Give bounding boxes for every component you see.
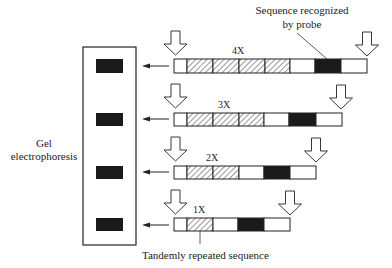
arrow-left-icon xyxy=(142,223,150,228)
flanking-segment xyxy=(174,59,187,73)
probe-label: Sequence recognized by probe xyxy=(252,4,352,30)
fragment-row-2x: 2X xyxy=(96,137,328,179)
flanking-segment xyxy=(174,166,187,179)
gel-band xyxy=(96,166,123,179)
tandem-repeat-segment xyxy=(265,59,290,73)
restriction-site-arrow-icon xyxy=(164,31,187,55)
repeat-count-label: 4X xyxy=(232,45,245,56)
probe-label-line2: by probe xyxy=(252,18,352,30)
flanking-segment xyxy=(341,59,367,73)
diagram-canvas: 4X3X2X1X Sequence recognized by probe Ge… xyxy=(0,0,392,268)
gel-band xyxy=(96,59,123,73)
restriction-site-arrow-icon xyxy=(330,85,353,109)
gel-box xyxy=(83,47,136,245)
gel-label: Gel electrophoresis xyxy=(8,137,80,162)
restriction-site-arrow-icon xyxy=(279,191,302,215)
probe-site-segment xyxy=(289,113,316,126)
flanking-segment xyxy=(316,113,342,126)
restriction-site-arrow-icon xyxy=(164,190,187,214)
repeat-count-label: 3X xyxy=(218,99,231,110)
tandem-repeat-segment xyxy=(239,113,264,126)
tandem-repeat-segment xyxy=(213,59,239,73)
tandem-repeat-segment xyxy=(187,166,213,179)
restriction-site-arrow-icon xyxy=(164,137,187,161)
tandem-repeat-segment xyxy=(239,59,265,73)
arrow-left-icon xyxy=(142,170,150,175)
flanking-segment xyxy=(264,113,289,126)
repeat-count-label: 2X xyxy=(206,152,219,163)
tandem-repeat-segment xyxy=(213,113,239,126)
restriction-site-arrow-icon xyxy=(356,32,379,56)
flanking-segment xyxy=(213,218,238,231)
tandem-repeat-segment xyxy=(187,218,213,231)
tandem-repeat-segment xyxy=(213,166,239,179)
tandem-repeat-segment xyxy=(187,59,213,73)
probe-leader-line xyxy=(297,33,327,59)
tandem-repeat-diagram: 4X3X2X1X xyxy=(0,0,392,268)
probe-label-line1: Sequence recognized xyxy=(252,4,352,16)
gel-label-line2: electrophoresis xyxy=(8,150,80,162)
arrow-left-icon xyxy=(142,64,150,69)
arrow-left-icon xyxy=(142,117,150,122)
tandem-repeat-segment xyxy=(187,113,213,126)
flanking-segment xyxy=(174,113,187,126)
fragment-row-3x: 3X xyxy=(96,84,353,126)
restriction-site-arrow-icon xyxy=(305,138,328,162)
flanking-segment xyxy=(264,218,290,231)
flanking-segment xyxy=(239,166,264,179)
probe-site-segment xyxy=(264,166,290,179)
repeat-count-label: 1X xyxy=(193,204,206,215)
gel-band xyxy=(96,113,123,126)
flanking-segment xyxy=(174,218,187,231)
gel-electrophoresis-panel xyxy=(83,47,136,245)
gel-label-line1: Gel xyxy=(8,137,80,149)
flanking-segment xyxy=(290,59,315,73)
tandem-repeat-label: Tandemly repeated sequence xyxy=(142,249,269,261)
fragment-row-4x: 4X xyxy=(96,31,379,73)
dna-fragment-rows: 4X3X2X1X xyxy=(96,31,379,231)
flanking-segment xyxy=(290,166,316,179)
fragment-row-1x: 1X xyxy=(96,190,302,231)
probe-site-segment xyxy=(315,59,341,73)
gel-band xyxy=(96,218,123,231)
probe-site-segment xyxy=(238,218,264,231)
restriction-site-arrow-icon xyxy=(164,84,187,108)
